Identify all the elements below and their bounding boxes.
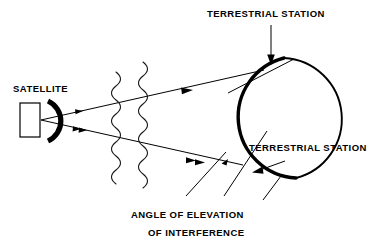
- satellite-dish-antenna: [48, 101, 61, 141]
- satellite-interference-diagram: SATELLITE TERRESTRIAL STATION TERRESTRIA…: [0, 0, 378, 249]
- beam-ray-upper: [41, 70, 264, 120]
- label-terrestrial-station-top: TERRESTRIAL STATION: [207, 8, 325, 19]
- leader-line-angle-b: [263, 176, 281, 200]
- ray-arrowhead-upper-mid: [181, 88, 193, 95]
- callout-arrow-right-station: [252, 167, 264, 174]
- beam-ray-lower: [41, 120, 243, 165]
- interference-wavefront-left: [112, 72, 121, 184]
- label-satellite: SATELLITE: [13, 83, 68, 94]
- ray-arrowhead-lower-near-b: [79, 128, 87, 133]
- earth-circle-thin-arc: [284, 58, 342, 178]
- label-terrestrial-station-right: TERRESTRIAL STATION: [249, 142, 367, 153]
- earth-circle-thick-arc: [238, 58, 296, 178]
- ray-arrowhead-lower-mid-a: [186, 157, 196, 163]
- label-of-interference: OF INTERFERENCE: [148, 227, 244, 238]
- label-angle-of-elevation: ANGLE OF ELEVATION: [131, 209, 244, 220]
- diagram-canvas: SATELLITE TERRESTRIAL STATION TERRESTRIA…: [0, 0, 378, 249]
- ray-arrowhead-upper-near: [75, 109, 83, 114]
- satellite-body-rectangle: [20, 103, 40, 137]
- ray-arrowhead-lower-mid-b: [195, 159, 205, 165]
- leader-line-angle-a: [186, 152, 226, 196]
- interference-wavefront-right: [139, 62, 148, 188]
